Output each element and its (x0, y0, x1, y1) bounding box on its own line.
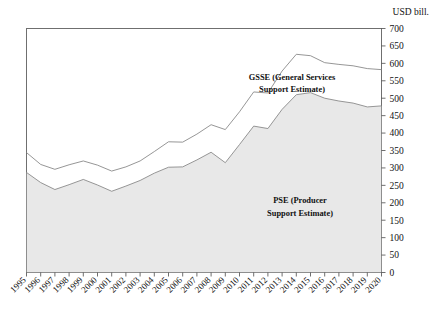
gsse-label-line2: Support Estimate) (259, 85, 325, 94)
gsse-label-line1: GSSE (General Services (249, 73, 336, 82)
y-tick-label: 350 (390, 146, 405, 156)
y-tick-label: 250 (390, 181, 405, 191)
y-tick-label: 700 (390, 24, 405, 34)
y-tick-label: 0 (390, 268, 395, 278)
pse-label-line1: PSE (Producer (273, 196, 327, 205)
y-tick-label: 100 (390, 233, 405, 243)
pse-label-line2: Support Estimate) (267, 209, 333, 218)
y-tick-label: 300 (390, 163, 405, 173)
y-axis-unit-label: USD bill. (393, 7, 429, 17)
y-tick-label: 200 (390, 198, 405, 208)
y-tick-label: 150 (390, 216, 405, 226)
y-tick-label: 50 (390, 250, 400, 260)
stacked-area-chart: USD bill. 700650600550500450400350300250… (0, 0, 433, 316)
y-tick-label: 650 (390, 41, 405, 51)
y-tick-label: 500 (390, 94, 405, 104)
y-tick-label: 450 (390, 111, 405, 121)
chart-container: USD bill. 700650600550500450400350300250… (0, 0, 433, 316)
y-tick-label: 400 (390, 128, 405, 138)
y-tick-label: 550 (390, 76, 405, 86)
y-tick-label: 600 (390, 59, 405, 69)
